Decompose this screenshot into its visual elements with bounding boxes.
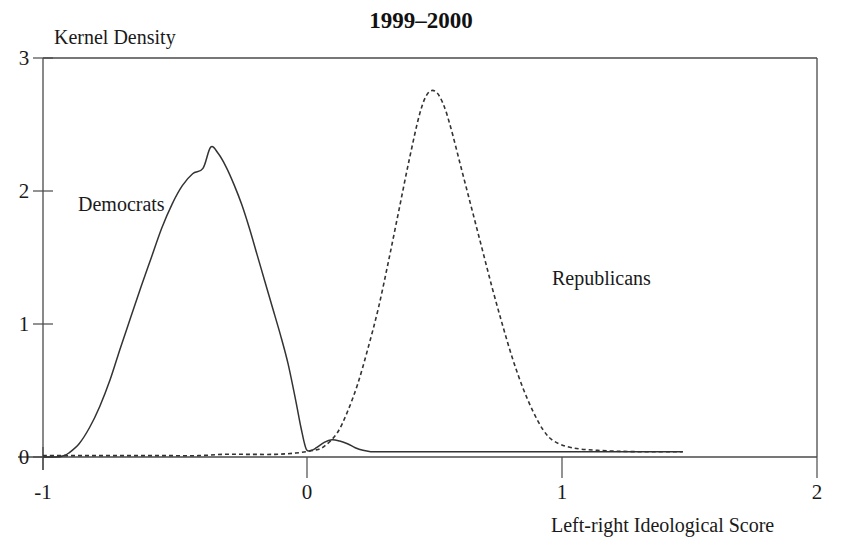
chart-plot-area: 0 1 2 3 -1 0 1 2 (0, 0, 842, 553)
chart-page: 1999–2000 Kernel Density Left-right Ideo… (0, 0, 842, 553)
y-tick-label-3: 3 (19, 46, 30, 70)
x-tick-label-minus1: -1 (34, 480, 52, 504)
y-axis-ticks: 0 1 2 3 (19, 46, 53, 469)
y-tick-label-1: 1 (19, 312, 30, 336)
x-axis-ticks: -1 0 1 2 (34, 447, 822, 504)
density-curve-democrats (43, 147, 683, 458)
density-curve-republicans (43, 90, 683, 455)
x-tick-label-1: 1 (557, 480, 568, 504)
y-tick-label-2: 2 (19, 179, 30, 203)
x-tick-label-0: 0 (302, 480, 313, 504)
x-tick-label-2: 2 (812, 480, 823, 504)
y-tick-label-0: 0 (19, 445, 30, 469)
